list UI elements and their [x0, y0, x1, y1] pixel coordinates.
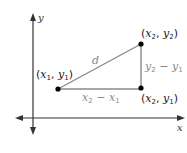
right-triangle — [58, 44, 141, 89]
horizontal-leg-label: x2 − x1 — [82, 92, 120, 105]
point-label-x2-y2: (x2, y2) — [141, 28, 178, 41]
point-x1-y1 — [55, 86, 60, 91]
x-axis-right-arrow-icon — [177, 115, 185, 121]
point-x2-y1 — [138, 85, 143, 90]
y-axis-down-arrow-icon — [30, 127, 36, 135]
y-axis-up-arrow-icon — [30, 13, 36, 21]
x-axis — [15, 115, 185, 121]
hypotenuse-segment — [58, 44, 141, 89]
x-axis-left-arrow-icon — [15, 115, 23, 121]
point-label-x1-y1: (x1, y1) — [36, 69, 73, 82]
point-label-x2-y1: (x2, y1) — [141, 93, 178, 106]
x-axis-label: x — [177, 123, 183, 133]
coordinate-plane — [0, 0, 187, 153]
y-axis-label: y — [38, 13, 44, 23]
hypotenuse-label-d: d — [92, 55, 99, 66]
vertical-leg-label: y2 − y1 — [145, 61, 183, 74]
point-x2-y2 — [138, 41, 143, 46]
